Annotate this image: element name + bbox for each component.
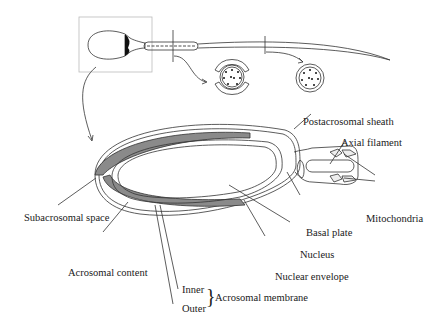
zoom-box [79,17,152,72]
label-acrosomal-membrane: Acrosomal membrane [215,293,308,304]
label-postacrosomal-sheath: Postacrosomal sheath [303,117,394,128]
label-basal-plate: Basal plate [306,228,352,239]
label-mitochondria: Mitochondria [366,214,423,225]
axial-filament [306,160,354,172]
tail [198,42,390,60]
label-subacrosomal-space: Subacrosomal space [24,213,109,224]
label-axial-filament: Axial filament [341,138,402,149]
mitochondria-upper [330,149,356,157]
label-nucleus: Nucleus [300,250,334,261]
label-nuclear-envelope: Nuclear envelope [275,272,349,283]
label-outer: Outer [182,304,206,315]
acrosome-upper [95,132,250,175]
sperm-head-outline [88,31,145,59]
diagram-drawing [0,0,441,331]
label-acrosomal-content: Acrosomal content [68,268,148,279]
sperm-diagram: Postacrosomal sheath Axial filament Mito… [0,0,441,331]
acrosome-lower [103,175,245,206]
label-inner: Inner [182,285,204,296]
mitochondria-lower [330,174,356,182]
